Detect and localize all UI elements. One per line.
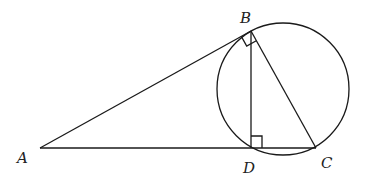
label-C: C xyxy=(321,154,333,172)
geometry-diagram: B A D C xyxy=(0,0,367,184)
right-angle-mark-B xyxy=(241,36,256,46)
right-angle-mark-D xyxy=(251,136,262,148)
label-B: B xyxy=(239,9,251,27)
label-A: A xyxy=(15,149,28,167)
segment-BC xyxy=(251,31,316,148)
label-D: D xyxy=(242,159,255,177)
segment-AB xyxy=(40,31,251,148)
